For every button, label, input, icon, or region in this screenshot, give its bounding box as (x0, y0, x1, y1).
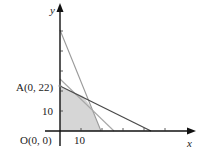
y-tick-label-10: 10 (42, 106, 53, 117)
origin-label: O(0, 0) (20, 135, 52, 146)
point-a-label: A(0, 22) (16, 82, 53, 93)
feasible-region-diagram (0, 0, 203, 156)
y-axis-arrow-icon (57, 3, 64, 12)
x-axis-label: x (187, 138, 192, 149)
point-a-marker (59, 85, 62, 88)
feasible-region (60, 87, 101, 131)
y-axis-label: y (50, 5, 55, 16)
x-axis-arrow-icon (187, 128, 196, 135)
x-tick-label-10: 10 (74, 135, 85, 146)
